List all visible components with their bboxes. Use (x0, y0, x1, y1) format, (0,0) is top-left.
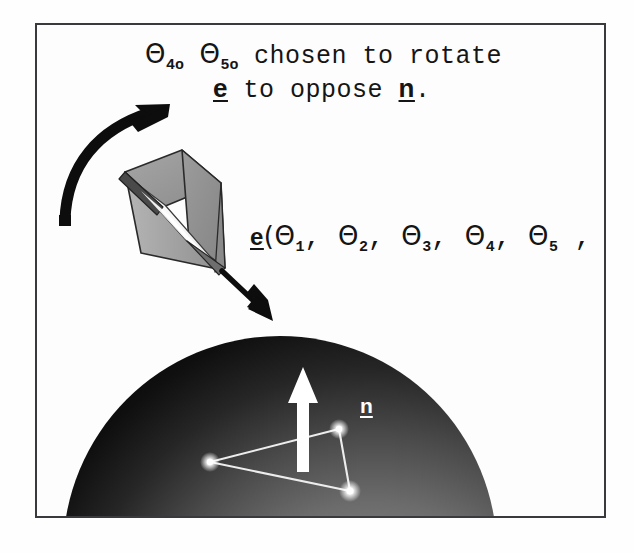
theta-subscript: 5o (220, 57, 238, 74)
theta-symbol: Θ (275, 221, 296, 251)
theta-symbol: Θ (145, 39, 166, 69)
caption-spacer (238, 42, 254, 71)
shaded-sphere (63, 336, 497, 516)
caption-words: to oppose (243, 76, 383, 105)
theta-symbol: Θ (465, 221, 486, 251)
caption-spacer (511, 223, 528, 253)
caption-spacer (558, 223, 575, 253)
caption-spacer (321, 223, 338, 253)
caption-spacer (184, 42, 200, 71)
e-direction-arrow (222, 271, 273, 321)
caption-spacer (591, 223, 606, 253)
caption-period: . (415, 76, 431, 105)
theta-subscript: 1 (295, 239, 304, 256)
separator: , (495, 223, 512, 253)
open-paren: ( (264, 221, 275, 251)
caption-spacer (383, 76, 399, 105)
vector-e-label: e (250, 223, 264, 250)
vector-expression: e(Θ1, Θ2, Θ3, Θ4, Θ5 , Θ6) (250, 220, 606, 264)
theta-subscript: 2 (359, 239, 368, 256)
theta-symbol: Θ (528, 221, 549, 251)
separator: , (305, 223, 322, 253)
caption-spacer (228, 76, 244, 105)
caption-words: chosen to rotate (254, 42, 502, 71)
figure-border-frame: Θ4o Θ5o chosen to rotate e to oppose n. … (35, 23, 606, 518)
separator: , (368, 223, 385, 253)
caption-spacer (448, 223, 465, 253)
theta-subscript: 3 (422, 239, 431, 256)
theta-subscript: 4o (166, 57, 184, 74)
theta-subscript: 5 (549, 239, 558, 256)
theta-symbol: Θ (401, 221, 422, 251)
figure-root: Θ4o Θ5o chosen to rotate e to oppose n. … (0, 0, 634, 553)
caption-line-2: e to oppose n. (213, 73, 430, 106)
theta-symbol: Θ (338, 221, 359, 251)
normal-vector-label: n (360, 394, 373, 418)
vector-n-label: n (399, 73, 415, 103)
viewing-frustum (119, 150, 225, 275)
vector-e-label: e (213, 73, 228, 103)
separator: , (431, 223, 448, 253)
separator: , (575, 223, 592, 253)
theta-subscript: 4 (486, 239, 495, 256)
theta-symbol: Θ (200, 39, 221, 69)
caption-spacer (385, 223, 402, 253)
